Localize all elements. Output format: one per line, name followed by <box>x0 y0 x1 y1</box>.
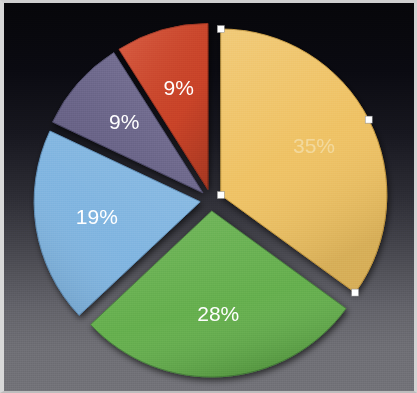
chart-screenshot: 35% 28% 19% 9% 9% <box>0 0 417 393</box>
pie-label-9-percent-purple: 9% <box>109 110 139 133</box>
pie-label-19-percent: 19% <box>76 205 118 228</box>
pie-chart[interactable]: 35% 28% 19% 9% 9% <box>0 0 417 393</box>
selection-handle-top[interactable] <box>217 26 224 33</box>
pie-label-9-percent-red: 9% <box>164 76 194 99</box>
pie-label-28-percent: 28% <box>197 302 239 325</box>
selection-handle-arc-bottom[interactable] <box>352 289 359 296</box>
pie-label-35-percent: 35% <box>293 134 335 157</box>
selection-handle-center[interactable] <box>217 192 224 199</box>
selection-handle-arc-right[interactable] <box>365 116 372 123</box>
